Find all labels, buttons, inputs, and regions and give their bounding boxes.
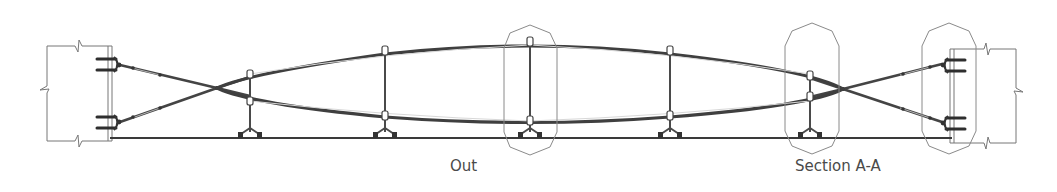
detail-callout-anchor[interactable] bbox=[922, 23, 976, 154]
struts bbox=[238, 37, 822, 138]
strut bbox=[658, 46, 682, 138]
detail-callout-section[interactable] bbox=[785, 23, 839, 154]
strut bbox=[373, 46, 397, 138]
out-label: Out bbox=[450, 157, 477, 175]
section-label: Section A-A bbox=[795, 157, 881, 175]
left-anchor-bolts bbox=[97, 57, 121, 130]
left-support-wall bbox=[40, 40, 112, 147]
truss-diagram bbox=[0, 0, 1057, 192]
right-anchor-bolts bbox=[941, 58, 965, 131]
